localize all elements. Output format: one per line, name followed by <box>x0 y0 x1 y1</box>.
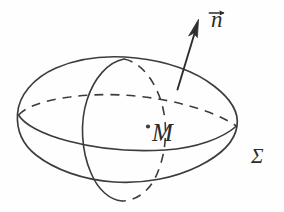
ellipsoid-outline <box>17 57 237 182</box>
meridian-front-half-group <box>82 59 124 201</box>
figure-canvas: n M Σ <box>0 0 284 212</box>
arrow-up-right-icon-shaft <box>178 35 195 90</box>
equator-front-half-group <box>19 115 237 151</box>
equator-back-half-dashed <box>19 95 237 126</box>
normal-vector-label-text: n <box>210 8 224 31</box>
ellipsoid-surface-diagram <box>0 0 284 212</box>
surface-sigma-label: Σ <box>251 146 263 167</box>
equator-back-half-group <box>19 95 237 126</box>
normal-vector-label: n <box>210 8 224 31</box>
normal-vector-arrow-group <box>178 19 199 89</box>
meridian-front-half-solid <box>82 59 124 201</box>
point-dot-icon <box>146 124 150 128</box>
ellipsoid-outline-group <box>17 57 237 182</box>
equator-front-half-solid <box>19 115 237 151</box>
point-m-label: M <box>152 120 173 145</box>
point-m-group <box>146 124 150 128</box>
